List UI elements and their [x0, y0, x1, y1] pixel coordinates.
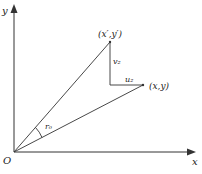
u2-label: u₂: [125, 75, 133, 84]
angle-label: r₀: [45, 122, 53, 131]
x-axis-arrow-icon: [187, 149, 196, 156]
ray-to-original-point: [14, 85, 143, 152]
original-point-marker: [142, 84, 144, 86]
origin-label: O: [3, 155, 11, 166]
rotated-point-marker: [109, 41, 111, 43]
rotation-diagram: y x O (x′,y′) (x,y) v₂ u₂ r₀: [0, 0, 202, 174]
original-point-label: (x,y): [149, 81, 170, 91]
ray-to-rotated-point: [14, 42, 110, 152]
rotated-point-label: (x′,y′): [98, 29, 123, 39]
y-axis-arrow-icon: [11, 4, 18, 13]
angle-arc: [36, 128, 43, 138]
v2-label: v₂: [113, 57, 121, 66]
x-axis-label: x: [192, 156, 198, 167]
y-axis-label: y: [1, 5, 8, 16]
